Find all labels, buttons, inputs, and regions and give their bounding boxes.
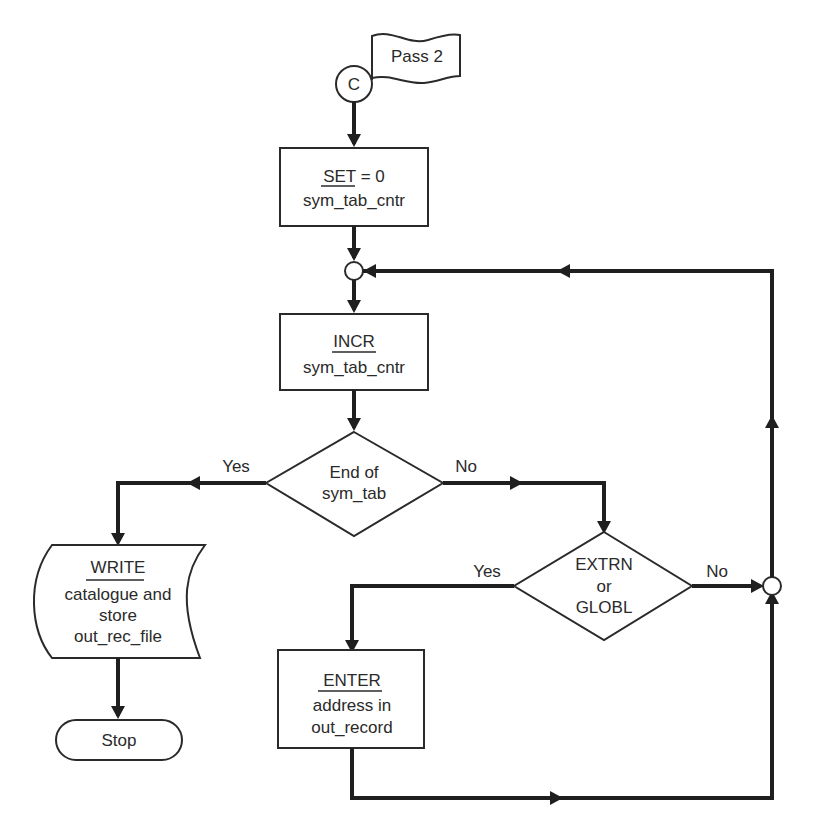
arrowhead-icon xyxy=(187,476,200,490)
process-enter: ENTER address in out_record xyxy=(278,650,424,748)
arrowhead-icon xyxy=(363,264,376,278)
enter-line2: address in xyxy=(313,696,391,715)
set-suffix: = 0 xyxy=(356,167,385,186)
decision-end-line1: End of xyxy=(329,463,378,482)
edge-end-no xyxy=(443,483,604,528)
io-write: WRITE catalogue and store out_rec_file xyxy=(34,545,205,658)
start-connector-c: C xyxy=(336,66,372,102)
write-line4: out_rec_file xyxy=(74,627,162,646)
incr-keyword: INCR xyxy=(333,332,375,351)
enter-keyword: ENTER xyxy=(323,671,381,690)
arrowhead-icon xyxy=(111,706,125,719)
pass-flag-label: Pass 2 xyxy=(391,47,443,66)
decision-end-line2: sym_tab xyxy=(322,484,386,503)
decision-extrn-line2: or xyxy=(596,577,611,596)
process-set: SET = 0 sym_tab_cntr xyxy=(280,148,428,226)
arrowhead-icon xyxy=(347,418,361,431)
terminator-stop: Stop xyxy=(56,720,182,760)
write-line3: store xyxy=(99,606,137,625)
arrowhead-icon xyxy=(765,415,779,428)
enter-line3: out_record xyxy=(311,718,392,737)
flowchart-canvas: Pass 2 C SET = 0 sym_tab_cntr INCR sym_t… xyxy=(0,0,813,833)
connector-c-label: C xyxy=(348,75,360,94)
extrn-no-label: No xyxy=(706,562,728,581)
arrowhead-icon xyxy=(347,134,361,147)
edge-end-yes xyxy=(118,483,266,540)
write-line2: catalogue and xyxy=(65,585,172,604)
extrn-yes-label: Yes xyxy=(473,562,501,581)
arrowhead-icon xyxy=(550,791,563,805)
set-line2: sym_tab_cntr xyxy=(303,191,405,210)
stop-label: Stop xyxy=(102,731,137,750)
pass-flag: Pass 2 xyxy=(372,34,460,83)
loop-junction xyxy=(345,262,363,280)
arrowhead-icon xyxy=(510,476,523,490)
right-junction xyxy=(763,577,781,595)
incr-line2: sym_tab_cntr xyxy=(303,358,405,377)
edge-extrn-yes xyxy=(352,586,514,646)
arrowhead-icon xyxy=(557,264,570,278)
arrowhead-icon xyxy=(347,248,361,261)
end-no-label: No xyxy=(455,457,477,476)
set-keyword: SET xyxy=(323,167,356,186)
decision-end-of-symtab: End of sym_tab xyxy=(266,432,443,536)
decision-extrn-line3: GLOBL xyxy=(576,598,633,617)
write-keyword: WRITE xyxy=(91,558,146,577)
end-yes-label: Yes xyxy=(222,457,250,476)
process-incr: INCR sym_tab_cntr xyxy=(280,314,428,390)
decision-extrn-line1: EXTRN xyxy=(575,555,633,574)
arrowhead-icon xyxy=(347,300,361,313)
svg-text:SET = 0: SET = 0 xyxy=(323,167,385,186)
decision-extrn-globl: EXTRN or GLOBL xyxy=(514,532,692,640)
